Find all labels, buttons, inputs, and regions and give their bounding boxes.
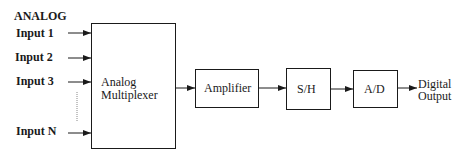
input-n-label: Input N [16, 125, 56, 137]
amplifier-label: Amplifier [204, 82, 251, 94]
output-label-line2: Output [418, 90, 451, 102]
multiplexer-label-line2: Multiplexer [101, 89, 158, 101]
sample-hold-label: S/H [297, 83, 316, 95]
input-3-label: Input 3 [16, 75, 54, 87]
input-1-label: Input 1 [16, 27, 54, 39]
adc-label: A/D [364, 83, 385, 95]
block-diagram-lines [0, 0, 463, 158]
input-2-label: Input 2 [15, 51, 53, 63]
multiplexer-label-line1: Analog [101, 76, 136, 88]
analog-title: ANALOG [14, 10, 67, 22]
